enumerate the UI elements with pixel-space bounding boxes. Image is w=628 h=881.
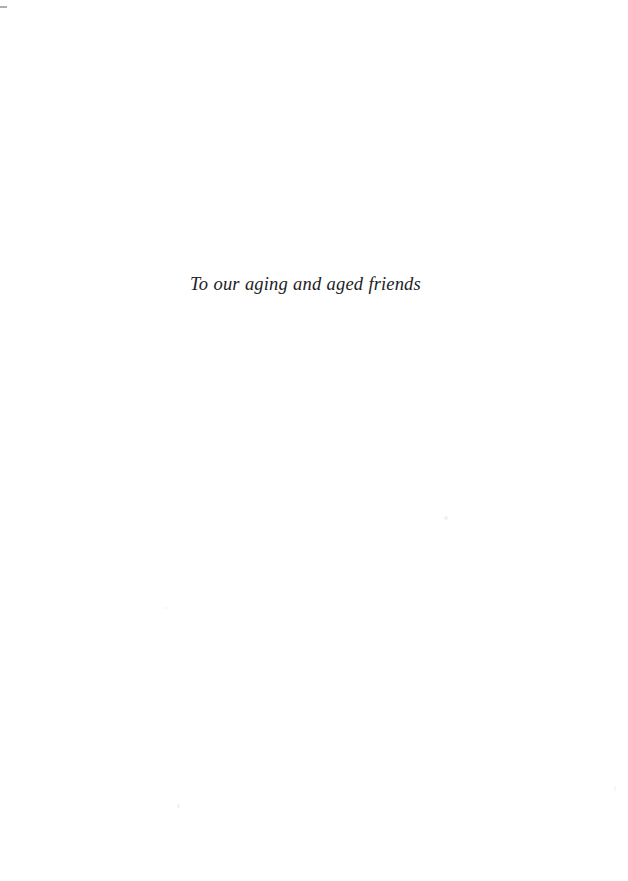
dedication-page: To our aging and aged friends (0, 0, 628, 881)
dedication-text: To our aging and aged friends (190, 272, 421, 296)
paper-speck (444, 516, 448, 520)
dedication-block: To our aging and aged friends (0, 272, 628, 296)
scan-edge-mark-icon (0, 6, 7, 8)
paper-speck (177, 804, 180, 808)
paper-speck (614, 786, 616, 791)
paper-speck (164, 607, 167, 609)
